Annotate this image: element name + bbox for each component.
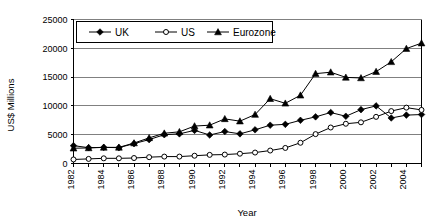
marker-open-circle: [192, 153, 197, 158]
marker-open-circle: [343, 121, 348, 126]
marker-filled-diamond: [297, 117, 304, 124]
marker-filled-diamond: [206, 132, 213, 139]
marker-filled-diamond: [358, 106, 365, 113]
x-tick-label: 1982: [66, 170, 76, 190]
marker-filled-diamond: [252, 127, 259, 134]
y-tick-label: 5000: [47, 130, 67, 140]
marker-filled-diamond: [282, 121, 289, 128]
marker-filled-diamond: [222, 128, 229, 135]
marker-filled-diamond: [403, 112, 410, 119]
marker-filled-diamond: [343, 113, 350, 120]
marker-open-circle: [404, 105, 409, 110]
x-tick-label: 1998: [308, 170, 318, 190]
marker-open-circle: [164, 30, 169, 35]
data-series: [70, 40, 425, 162]
legend-label: US: [181, 27, 195, 38]
x-tick-label: 1994: [247, 170, 257, 190]
chart-legend: UKUSEurozone: [76, 22, 276, 43]
y-axis-tick-labels: 0500010000150002000025000: [42, 15, 67, 169]
marker-filled-triangle: [418, 40, 425, 46]
chart-container: 0500010000150002000025000 19821984198619…: [0, 0, 438, 222]
marker-open-circle: [419, 107, 424, 112]
marker-filled-diamond: [267, 122, 274, 129]
marker-open-circle: [253, 150, 258, 155]
x-tick-label: 1986: [126, 170, 136, 190]
x-axis-tick-labels: 1982198419861988199019921994199619982000…: [66, 170, 409, 190]
x-tick-label: 1988: [156, 170, 166, 190]
x-axis-title: Year: [237, 207, 256, 218]
y-tick-label: 10000: [42, 101, 67, 111]
marker-open-circle: [222, 152, 227, 157]
marker-filled-diamond: [327, 109, 334, 116]
series-uk: [70, 103, 425, 151]
legend-label: Eurozone: [233, 27, 276, 38]
y-tick-label: 20000: [42, 44, 67, 54]
marker-open-circle: [101, 156, 106, 161]
x-tick-label: 1990: [187, 170, 197, 190]
marker-filled-triangle: [373, 68, 380, 74]
y-tick-label: 25000: [42, 15, 67, 25]
marker-open-circle: [268, 148, 273, 153]
marker-open-circle: [86, 156, 91, 161]
marker-open-circle: [374, 114, 379, 119]
marker-filled-triangle: [221, 115, 228, 121]
x-tick-label: 2004: [398, 170, 408, 190]
marker-open-circle: [328, 125, 333, 130]
marker-filled-diamond: [237, 131, 244, 138]
marker-open-circle: [389, 109, 394, 114]
y-axis-title: US$ Millions: [5, 78, 16, 131]
marker-open-circle: [313, 132, 318, 137]
series-line: [74, 106, 422, 148]
x-tick-label: 2000: [338, 170, 348, 190]
marker-open-circle: [298, 140, 303, 145]
marker-open-circle: [147, 155, 152, 160]
marker-open-circle: [132, 156, 137, 161]
marker-open-circle: [162, 154, 167, 159]
marker-open-circle: [71, 157, 76, 162]
line-chart: 0500010000150002000025000 19821984198619…: [0, 0, 438, 222]
series-line: [74, 108, 422, 160]
marker-filled-triangle: [176, 128, 183, 134]
x-tick-label: 2002: [368, 170, 378, 190]
series-us: [71, 105, 424, 162]
y-tick-label: 15000: [42, 72, 67, 82]
marker-open-circle: [177, 154, 182, 159]
marker-open-circle: [358, 120, 363, 125]
marker-open-circle: [283, 145, 288, 150]
x-tick-label: 1984: [96, 170, 106, 190]
marker-filled-diamond: [312, 114, 319, 121]
marker-filled-triangle: [327, 69, 334, 75]
y-tick-label: 0: [62, 159, 67, 169]
marker-open-circle: [116, 156, 121, 161]
marker-filled-triangle: [297, 92, 304, 98]
x-tick-label: 1992: [217, 170, 227, 190]
series-line: [74, 43, 422, 148]
legend-label: UK: [115, 27, 129, 38]
marker-open-circle: [237, 151, 242, 156]
marker-open-circle: [207, 152, 212, 157]
x-tick-label: 1996: [277, 170, 287, 190]
marker-filled-triangle: [267, 95, 274, 101]
